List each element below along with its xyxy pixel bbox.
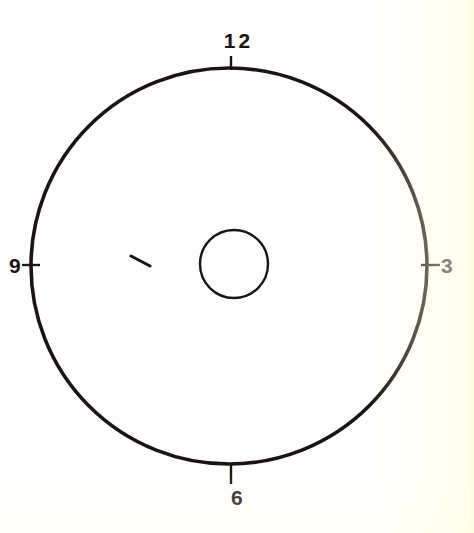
- dial-outer-circle: [31, 68, 427, 464]
- clock-diagram: [0, 0, 474, 533]
- hour-label-9: 9: [9, 255, 21, 276]
- hour-label-6: 6: [0, 487, 474, 508]
- figure-canvas: 12 3 6 9: [0, 0, 474, 533]
- hour-label-12: 12: [0, 30, 474, 51]
- clock-hand-fragment: [131, 256, 150, 266]
- hub-circle: [200, 230, 268, 298]
- hour-label-3: 3: [441, 255, 453, 276]
